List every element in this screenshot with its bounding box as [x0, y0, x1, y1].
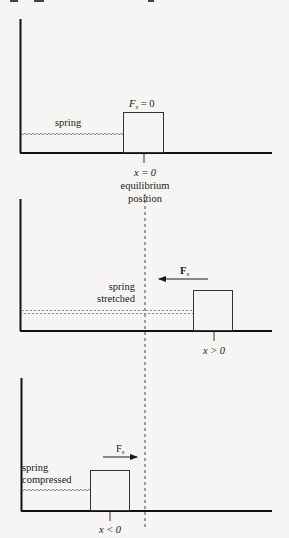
spring-label-line2: compressed [22, 474, 72, 485]
spring [21, 131, 123, 135]
spring-label-line1: spring [22, 462, 49, 473]
panel-compressed: spring compressed Fs x < 0 [21, 378, 272, 535]
spring-diagram: spring Fs = 0 x = 0 equilibrium position… [0, 0, 289, 538]
position-label: x = 0 [133, 167, 157, 178]
cropped-text-fragment [10, 0, 154, 2]
spring [22, 489, 90, 493]
panel-equilibrium: spring Fs = 0 x = 0 equilibrium position [20, 19, 272, 204]
spring-label-line2: stretched [97, 293, 136, 304]
force-label: Fs = 0 [128, 98, 155, 111]
position-label: x < 0 [98, 524, 122, 535]
spring-label-line1: spring [109, 281, 136, 292]
force-label: Fs [180, 265, 189, 278]
block [91, 471, 130, 511]
panel-stretched: spring stretched Fs x > 0 [20, 199, 272, 356]
block [194, 291, 233, 331]
equilibrium-caption-line1: equilibrium [121, 180, 170, 191]
force-label: Fs [116, 443, 125, 456]
block [124, 113, 164, 153]
equilibrium-caption-line2: position [128, 193, 163, 204]
spring-label: spring [55, 117, 82, 128]
position-label: x > 0 [202, 345, 226, 356]
spring [21, 310, 193, 314]
